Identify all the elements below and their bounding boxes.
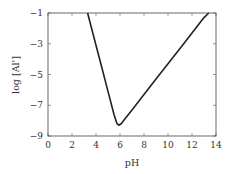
x-axis-label: pH (125, 157, 139, 168)
y-tick-label: −5 (30, 70, 44, 80)
x-tick-label: 4 (93, 140, 99, 150)
x-tick-label: 8 (141, 140, 147, 150)
chart: 02468101214−1−3−5−7−9 pH log [Al'] (0, 0, 232, 174)
x-tick-label: 12 (186, 140, 197, 150)
y-tick-label: −1 (30, 8, 43, 18)
x-tick-label: 6 (117, 140, 123, 150)
series-line (88, 13, 209, 125)
plot-frame (48, 13, 216, 136)
x-tick-label: 10 (162, 140, 174, 150)
y-axis-label: log [Al'] (10, 56, 21, 94)
y-tick-label: −7 (30, 100, 44, 110)
x-tick-label: 14 (210, 140, 222, 150)
x-tick-label: 0 (45, 140, 51, 150)
x-tick-label: 2 (69, 140, 75, 150)
y-tick-label: −3 (30, 39, 44, 49)
y-tick-label: −9 (30, 131, 44, 141)
